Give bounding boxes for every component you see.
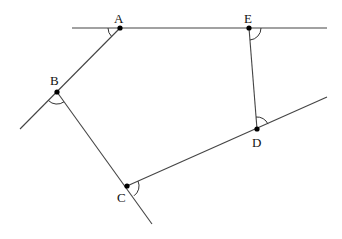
angle-mark-d (256, 117, 268, 124)
angle-mark-b (49, 101, 65, 104)
point-d (254, 126, 259, 131)
point-e (246, 25, 251, 30)
point-b (54, 89, 59, 94)
angle-mark-a (108, 28, 112, 37)
label-d: D (252, 135, 261, 150)
line-ab-extended (20, 28, 120, 129)
segment-ed (249, 28, 257, 129)
label-c: C (117, 190, 126, 205)
label-a: A (114, 11, 124, 26)
angle-mark-c (134, 181, 139, 196)
line-bc-extended (57, 92, 152, 224)
label-b: B (50, 73, 59, 88)
pentagon-diagram: A B C D E (0, 0, 342, 239)
point-c (124, 183, 129, 188)
label-e: E (244, 11, 252, 26)
line-cd-extended (127, 97, 327, 186)
angle-mark-e (250, 28, 261, 40)
point-a (117, 25, 122, 30)
